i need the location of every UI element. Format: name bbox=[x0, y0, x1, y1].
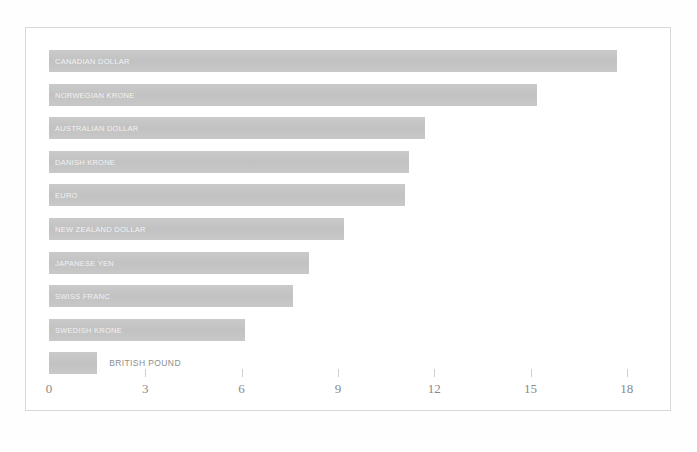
bar-label: SWEDISH KRONE bbox=[55, 325, 122, 334]
x-axis-tick-label: 9 bbox=[335, 381, 342, 397]
bar-label: CANADIAN DOLLAR bbox=[55, 57, 130, 66]
bar-row: DANISH KRONE bbox=[26, 151, 672, 173]
bar: EURO bbox=[49, 184, 405, 206]
bar-row: AUSTRALIAN DOLLAR bbox=[26, 117, 672, 139]
bar: CANADIAN DOLLAR bbox=[49, 50, 617, 72]
bar: SWEDISH KRONE bbox=[49, 319, 245, 341]
x-axis-tick-label: 6 bbox=[238, 381, 245, 397]
bar-label: NORWEGIAN KRONE bbox=[55, 90, 134, 99]
chart-frame: CANADIAN DOLLARNORWEGIAN KRONEAUSTRALIAN… bbox=[25, 27, 671, 411]
bar-label: JAPANESE YEN bbox=[55, 258, 114, 267]
bar-row: JAPANESE YEN bbox=[26, 252, 672, 274]
x-axis-tick-label: 18 bbox=[620, 381, 633, 397]
x-axis-tick bbox=[434, 369, 435, 377]
x-axis: 0369121518 bbox=[26, 365, 672, 412]
x-axis-tick bbox=[338, 369, 339, 377]
x-axis-tick-label: 15 bbox=[524, 381, 537, 397]
bar-row: SWISS FRANC bbox=[26, 285, 672, 307]
bar-row: SWEDISH KRONE bbox=[26, 319, 672, 341]
bar-label: SWISS FRANC bbox=[55, 292, 110, 301]
bar: SWISS FRANC bbox=[49, 285, 293, 307]
bar-label: DANISH KRONE bbox=[55, 157, 115, 166]
bar: JAPANESE YEN bbox=[49, 252, 309, 274]
bar-row: EURO bbox=[26, 184, 672, 206]
bar-row: NEW ZEALAND DOLLAR bbox=[26, 218, 672, 240]
bar-label: EURO bbox=[55, 191, 78, 200]
x-axis-tick-label: 3 bbox=[142, 381, 149, 397]
x-axis-tick bbox=[145, 369, 146, 377]
bar-row: NORWEGIAN KRONE bbox=[26, 84, 672, 106]
x-axis-tick-label: 0 bbox=[46, 381, 53, 397]
bar-label: NEW ZEALAND DOLLAR bbox=[55, 225, 146, 234]
x-axis-tick bbox=[531, 369, 532, 377]
bar: AUSTRALIAN DOLLAR bbox=[49, 117, 425, 139]
bar-label: AUSTRALIAN DOLLAR bbox=[55, 124, 138, 133]
bar: NEW ZEALAND DOLLAR bbox=[49, 218, 344, 240]
bar: DANISH KRONE bbox=[49, 151, 409, 173]
x-axis-tick-label: 12 bbox=[428, 381, 441, 397]
bar-row: CANADIAN DOLLAR bbox=[26, 50, 672, 72]
figure: CANADIAN DOLLARNORWEGIAN KRONEAUSTRALIAN… bbox=[0, 0, 697, 452]
x-axis-tick bbox=[627, 369, 628, 377]
bar: NORWEGIAN KRONE bbox=[49, 84, 537, 106]
plot-area: CANADIAN DOLLARNORWEGIAN KRONEAUSTRALIAN… bbox=[26, 28, 672, 412]
x-axis-tick bbox=[242, 369, 243, 377]
